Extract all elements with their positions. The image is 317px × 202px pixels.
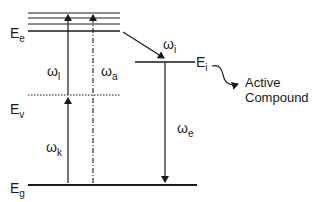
annotation-active: Active xyxy=(245,75,280,90)
label-laser-transition: ωl xyxy=(47,63,60,82)
label-virtual-level: Ev xyxy=(10,101,24,120)
annotation-compound: Compound xyxy=(245,90,309,105)
label-emission-transition: ωe xyxy=(177,120,194,139)
excited-state-manifold xyxy=(28,13,120,31)
label-pump-transition: ωk xyxy=(46,139,63,158)
label-absorption-transition: ωa xyxy=(101,63,118,82)
label-ground-level: Eg xyxy=(10,180,25,199)
energy-diagram: Ee Ev Eg Ei ωl ωa ωk ωi ωe Active Compou… xyxy=(0,0,317,202)
intersystem-arrow xyxy=(123,32,164,58)
curved-arrow xyxy=(212,66,238,85)
label-excited-level: Ee xyxy=(10,25,25,44)
label-intersystem-transition: ωi xyxy=(163,36,176,55)
label-intermediate-level: Ei xyxy=(196,54,208,73)
